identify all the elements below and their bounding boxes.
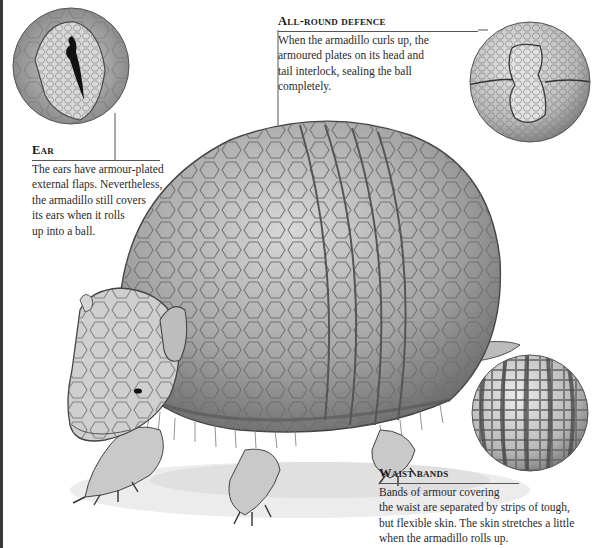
callout-ear: Ear The ears have armour-plated external… bbox=[32, 143, 192, 239]
callout-waist-line: the waist are separated by strips of tou… bbox=[379, 500, 594, 516]
callout-ear-line: external flaps. Nevertheless, bbox=[32, 177, 192, 193]
callout-defence-line: When the armadillo curls up, the bbox=[278, 33, 478, 49]
callout-defence-line: completely. bbox=[278, 79, 478, 95]
callout-defence-line: tail interlock, sealing the ball bbox=[278, 64, 478, 80]
inset-rolled-ball-closeup bbox=[468, 20, 593, 145]
callout-waist-line: but flexible skin. The skin stretches a … bbox=[379, 516, 594, 532]
callout-ear-line: the armadillo still covers bbox=[32, 193, 192, 209]
callout-ear-line: up into a ball. bbox=[32, 224, 192, 240]
callout-waist-bands: Waist bands Bands of armour covering the… bbox=[379, 466, 594, 547]
callout-ear-line: The ears have armour-plated bbox=[32, 162, 192, 178]
inset-ear-closeup bbox=[10, 5, 135, 130]
callout-waist-line: Bands of armour covering bbox=[379, 485, 594, 501]
callout-ear-line: its ears when it rolls bbox=[32, 208, 192, 224]
inset-waist-bands-closeup bbox=[470, 353, 590, 473]
armadillo-head bbox=[68, 288, 187, 441]
callout-waist-title: Waist bands bbox=[379, 466, 519, 484]
callout-all-round-defence: All-round defence When the armadillo cur… bbox=[278, 14, 478, 95]
callout-defence-title: All-round defence bbox=[278, 14, 478, 32]
callout-ear-title: Ear bbox=[32, 143, 160, 161]
callout-defence-line: armoured plates on its head and bbox=[278, 48, 478, 64]
callout-waist-line: when the armadillo rolls up. bbox=[379, 531, 594, 547]
